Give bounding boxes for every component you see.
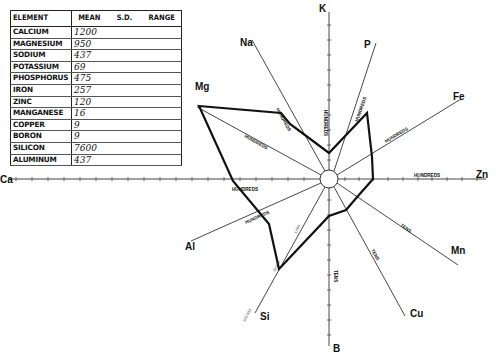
- radar-chart: K P Fe Zn Mn Cu B Si Al Ca Mg Na HUNDRED…: [0, 0, 496, 355]
- unit-k: HUNDREDS: [323, 110, 328, 136]
- axis-fe: [337, 99, 461, 175]
- axis-label-si: Si: [260, 311, 270, 322]
- axis-ticks: [16, 25, 477, 335]
- axis-label-b: B: [333, 343, 340, 354]
- unit-fe: HUNDREDS: [384, 126, 409, 144]
- axis-cu: [334, 187, 405, 316]
- axis-label-cu: Cu: [410, 308, 423, 319]
- unit-mn: TENS: [399, 223, 412, 234]
- axis-label-mg: Mg: [195, 81, 209, 92]
- axis-label-mn: Mn: [451, 245, 465, 256]
- unit-al: HUNDREDS: [244, 210, 270, 225]
- axis-si: [255, 187, 325, 313]
- unit-b: TENS: [333, 270, 338, 282]
- axis-label-na: Na: [240, 37, 253, 48]
- unit-mg: HUNDREDS: [244, 134, 269, 151]
- axis-label-fe: Fe: [453, 91, 465, 102]
- axis-label-al: Al: [185, 241, 195, 252]
- axis-label-p: P: [364, 39, 371, 50]
- axis-mn: [337, 183, 458, 265]
- unit-zn: HUNDREDS: [414, 173, 440, 178]
- unit-ca: HUNDREDS: [232, 187, 258, 192]
- center-circle: [320, 170, 338, 188]
- axis-label-ca: Ca: [0, 174, 13, 185]
- si-tick-100000: 100,000: [242, 309, 252, 323]
- axis-p: [334, 43, 376, 171]
- si-tick-1000: 1,000: [293, 224, 301, 234]
- unit-na: HUNDREDS: [275, 107, 292, 132]
- axis-label-k: K: [319, 3, 327, 14]
- axis-label-zn: Zn: [476, 169, 488, 180]
- axis-na: [252, 40, 325, 171]
